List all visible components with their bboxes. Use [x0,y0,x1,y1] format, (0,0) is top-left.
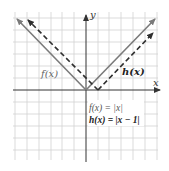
h-line [28,20,153,90]
x-axis-label: x [153,77,159,88]
h-equation: h(x) = |x − 1| [89,115,140,126]
graph-canvas: y x f(x) h(x) f(x) = |x| h(x) = |x − 1| [0,0,169,171]
h-label: h(x) [122,66,145,77]
y-axis-label: y [89,9,96,20]
f-label: f(x) [40,68,58,79]
f-equation: f(x) = |x| [89,103,123,114]
